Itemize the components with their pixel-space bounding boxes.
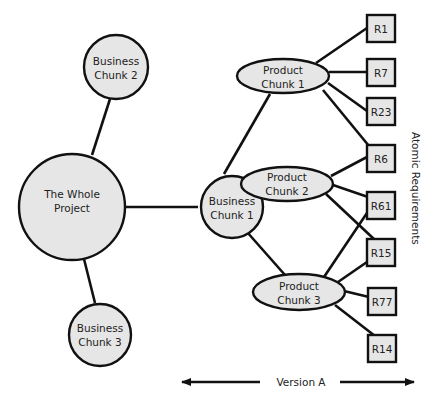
requirement-r14-label: R14 <box>372 343 393 355</box>
requirement-r15-label: R15 <box>371 247 392 259</box>
requirement-r23: R23 <box>367 98 395 125</box>
edge-pc2-r61 <box>333 185 368 197</box>
requirement-r15: R15 <box>367 239 395 266</box>
product-chunk-3-line1: Product <box>279 280 319 292</box>
whole-project-label-line2: Project <box>54 202 90 214</box>
edge-pc1-r1 <box>316 28 367 63</box>
node-business-chunk-3: Business Chunk 3 <box>69 304 131 366</box>
requirement-r1: R1 <box>367 15 395 42</box>
edge-pc2-r6 <box>331 157 367 176</box>
edge-pc1-r23 <box>328 83 367 111</box>
product-chunk-3-line2: Chunk 3 <box>277 294 320 306</box>
edge-whole-bc3 <box>84 259 95 303</box>
product-chunk-2-line1: Product <box>267 171 307 183</box>
product-chunk-1-line2: Chunk 1 <box>261 78 304 90</box>
node-product-chunk-3: Product Chunk 3 <box>253 274 345 310</box>
edge-bc1-pc1 <box>224 94 270 174</box>
requirement-r61-label: R61 <box>371 200 392 212</box>
node-product-chunk-1: Product Chunk 1 <box>237 59 329 93</box>
atomic-requirements-label: Atomic Requirements <box>410 132 422 245</box>
requirement-r6-label: R6 <box>374 153 388 165</box>
requirement-r1-label: R1 <box>374 23 388 35</box>
requirement-r7-label: R7 <box>374 67 388 79</box>
requirements-chunk-diagram: The Whole Project Business Chunk 2 Busin… <box>0 0 440 403</box>
business-chunk-3-line1: Business <box>77 322 123 334</box>
requirement-r61: R61 <box>367 192 395 219</box>
product-chunk-2-line2: Chunk 2 <box>265 185 308 197</box>
product-chunk-1-line1: Product <box>263 64 303 76</box>
node-whole-project: The Whole Project <box>19 154 125 260</box>
edge-pc3-r61 <box>324 210 369 277</box>
version-label: Version A <box>276 376 326 388</box>
business-chunk-1-line1: Business <box>209 195 255 207</box>
version-arrow: Version A <box>182 376 414 388</box>
business-chunk-1-line2: Chunk 1 <box>210 209 253 221</box>
requirement-r14: R14 <box>368 335 396 362</box>
requirement-r77: R77 <box>368 288 396 315</box>
business-chunk-3-line2: Chunk 3 <box>78 336 121 348</box>
node-product-chunk-2: Product Chunk 2 <box>241 167 333 201</box>
business-chunk-2-line1: Business <box>93 55 139 67</box>
whole-project-label-line1: The Whole <box>43 188 100 200</box>
requirements-column: R1 R7 R23 R6 R61 R15 R77 R14 <box>367 15 396 362</box>
requirement-r23-label: R23 <box>371 106 392 118</box>
business-chunk-2-line2: Chunk 2 <box>94 69 137 81</box>
edge-whole-bc2 <box>92 99 110 155</box>
node-business-chunk-2: Business Chunk 2 <box>84 35 148 99</box>
requirement-r7: R7 <box>367 59 395 86</box>
requirement-r6: R6 <box>367 145 395 172</box>
edge-pc3-r77 <box>344 291 369 297</box>
requirement-r77-label: R77 <box>372 296 393 308</box>
edge-pc1-r6 <box>323 90 369 146</box>
edge-pc3-r15 <box>338 262 367 282</box>
